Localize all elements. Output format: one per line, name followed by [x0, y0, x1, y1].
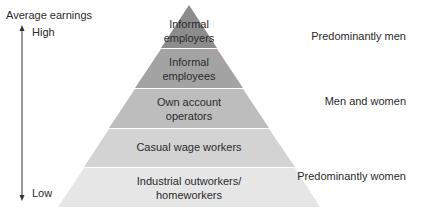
layer-4-label: Casual wage workers: [136, 140, 241, 154]
layer-5-label: Industrial outworkers/ homeworkers: [137, 174, 242, 202]
layer-3-label: Own account operators: [157, 95, 221, 123]
axis-title: Average earnings: [6, 9, 92, 22]
axis-low-label: Low: [32, 187, 52, 200]
gender-label-middle: Men and women: [325, 95, 406, 108]
arrow-up-icon: [20, 25, 25, 31]
gender-label-bottom: Predominantly women: [297, 170, 406, 183]
layer-2-label: Informal employees: [162, 55, 215, 83]
axis-high-label: High: [32, 26, 55, 39]
arrow-down-icon: [20, 195, 25, 201]
gender-label-top: Predominantly men: [311, 30, 406, 43]
layer-1-label: Informal employers: [164, 17, 215, 45]
